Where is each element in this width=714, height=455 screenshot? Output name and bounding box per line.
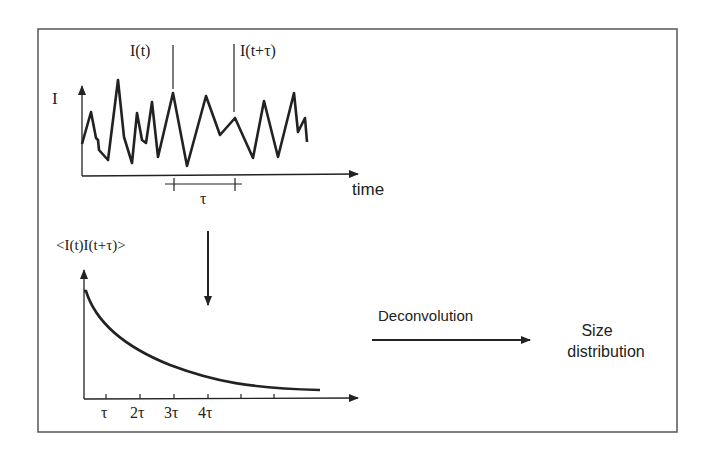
result-line-2: distribution — [567, 343, 644, 360]
diagram-frame — [38, 29, 677, 432]
result-line-1: Size — [581, 322, 612, 339]
autocorrelation-curve — [84, 291, 320, 390]
intensity-plot: I I(t) I(t+τ) τ time — [52, 42, 384, 207]
tick-label-3: 3τ — [164, 404, 179, 421]
tick-label-4: 4τ — [198, 404, 213, 421]
tick-label-2: 2τ — [130, 404, 145, 421]
intensity-signal — [82, 80, 307, 166]
diagram-canvas: I I(t) I(t+τ) τ time <I(t)I(t+τ)> τ 2τ 3… — [0, 0, 714, 455]
tau-label: τ — [200, 190, 207, 207]
marker-label-t: I(t) — [130, 42, 150, 60]
autocorrelation-y-label: <I(t)I(t+τ)> — [56, 237, 126, 254]
intensity-y-label: I — [52, 89, 58, 108]
autocorr-x-axis — [84, 398, 358, 399]
tick-label-1: τ — [101, 404, 108, 421]
deconvolution-label: Deconvolution — [378, 307, 473, 324]
time-axis-label: time — [352, 180, 384, 199]
intensity-x-axis — [82, 174, 358, 176]
marker-label-t-plus-tau: I(t+τ) — [240, 42, 276, 60]
